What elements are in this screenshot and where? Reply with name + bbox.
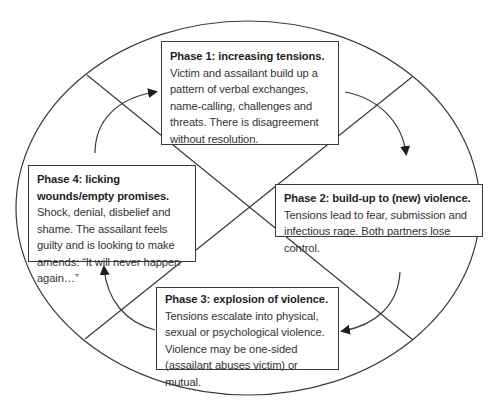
phase-2-description: Tensions lead to fear, submission and in… [284, 207, 475, 257]
arrow-phase1-to-phase2-icon [345, 92, 406, 153]
phase-2-box: Phase 2: build-up to (new) violence. Ten… [275, 184, 483, 237]
phase-3-box: Phase 3: explosion of violence. Tensions… [156, 287, 339, 370]
phase-4-description: Shock, denial, disbelief and shame. The … [37, 204, 188, 287]
phase-3-description: Tensions escalate into physical, sexual … [165, 308, 331, 391]
phase-4-box: Phase 4: licking wounds/empty promises. … [28, 165, 196, 262]
phase-1-title: Phase 1: increasing tensions. [170, 48, 331, 65]
phase-4-title: Phase 4: licking wounds/empty promises. [37, 171, 188, 204]
phase-3-title: Phase 3: explosion of violence. [165, 291, 331, 308]
phase-1-description: Victim and assailant build up a pattern … [170, 65, 331, 148]
phase-2-title: Phase 2: build-up to (new) violence. [284, 190, 475, 207]
phase-1-box: Phase 1: increasing tensions. Victim and… [161, 41, 339, 145]
